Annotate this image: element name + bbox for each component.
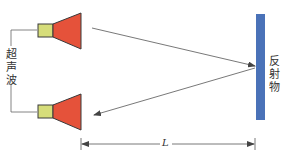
receiver-body bbox=[38, 105, 53, 118]
distance-label: L bbox=[160, 137, 171, 148]
ultrasonic-diagram bbox=[0, 0, 288, 159]
receiver-horn bbox=[53, 94, 81, 130]
reflector-label: 反射物 bbox=[268, 55, 280, 94]
transmitter-transducer bbox=[38, 13, 81, 49]
ultrasonic-label: 超声波 bbox=[5, 48, 17, 87]
incident-wave-arrow bbox=[92, 28, 255, 66]
reflector-plate bbox=[256, 14, 265, 120]
transmitter-horn bbox=[53, 13, 81, 49]
transmitter-body bbox=[38, 24, 53, 37]
receiver-transducer bbox=[38, 94, 81, 130]
reflected-wave-arrow bbox=[94, 68, 255, 115]
